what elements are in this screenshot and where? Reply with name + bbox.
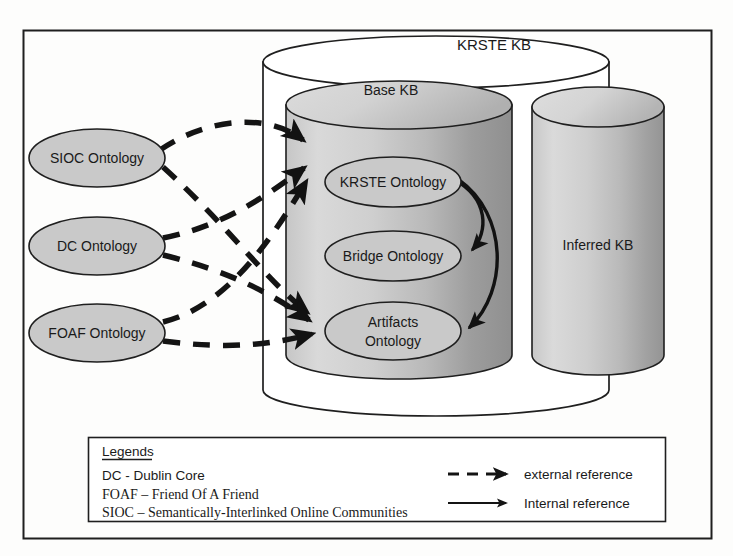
node-krste-ontology[interactable]: KRSTE Ontology xyxy=(325,157,461,207)
external-ontology-nodes: SIOC Ontology DC Ontology FOAF Ontology xyxy=(29,129,165,362)
node-dc-ontology[interactable]: DC Ontology xyxy=(29,217,165,275)
node-dc-ontology-label: DC Ontology xyxy=(57,238,137,254)
node-bridge-ontology[interactable]: Bridge Ontology xyxy=(325,231,461,281)
inferred-kb-label: Inferred KB xyxy=(563,237,634,253)
krste-kb-architecture-diagram: KRSTE KB Base KB Inferred KB xyxy=(0,0,733,556)
legend-title: Legends xyxy=(102,444,154,459)
inferred-kb-cylinder: Inferred KB xyxy=(532,87,664,375)
node-bridge-ontology-label: Bridge Ontology xyxy=(343,248,443,264)
node-artifacts-ontology[interactable]: Artifacts Ontology xyxy=(325,302,461,360)
krste-kb-label: KRSTE KB xyxy=(457,36,531,53)
node-artifacts-ontology-label-line2: Ontology xyxy=(365,333,421,349)
diagram-canvas: KRSTE KB Base KB Inferred KB xyxy=(0,0,733,556)
node-sioc-ontology-label: SIOC Ontology xyxy=(50,150,144,166)
node-krste-ontology-label: KRSTE Ontology xyxy=(340,174,447,190)
legend-key-internal-label: Internal reference xyxy=(524,496,630,511)
legend-key-external-label: external reference xyxy=(524,467,633,482)
internal-ontology-nodes: KRSTE Ontology Bridge Ontology Artifacts… xyxy=(325,157,461,360)
node-foaf-ontology-label: FOAF Ontology xyxy=(48,325,145,341)
base-kb-label: Base KB xyxy=(364,82,418,98)
legend-abbrev-sioc: SIOC – Semantically-Interlinked Online C… xyxy=(102,505,408,520)
node-sioc-ontology[interactable]: SIOC Ontology xyxy=(29,129,165,187)
legend-abbrev-foaf: FOAF – Friend Of A Friend xyxy=(102,487,259,502)
legend-box: Legends DC - Dublin Core FOAF – Friend O… xyxy=(89,438,666,522)
node-foaf-ontology[interactable]: FOAF Ontology xyxy=(29,304,165,362)
node-artifacts-ontology-label-line1: Artifacts xyxy=(368,314,419,330)
legend-abbrev-dc: DC - Dublin Core xyxy=(102,468,205,483)
